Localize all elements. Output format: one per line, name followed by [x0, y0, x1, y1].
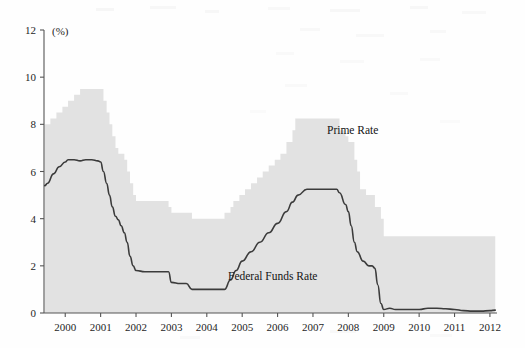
x-tick-label: 2011 — [444, 322, 466, 333]
x-tick-label: 2006 — [267, 322, 289, 333]
x-tick-label: 2007 — [302, 322, 324, 333]
x-tick-label: 2002 — [125, 322, 147, 333]
x-tick-label: 2000 — [54, 322, 76, 333]
y-axis-unit-label: (%) — [52, 26, 69, 37]
y-axis-ticks — [40, 30, 44, 313]
x-tick-label: 2009 — [373, 322, 395, 333]
y-tick-label: 0 — [6, 308, 36, 319]
x-tick-label: 2008 — [337, 322, 359, 333]
x-tick-label: 2005 — [231, 322, 253, 333]
x-axis-ticks — [65, 313, 490, 317]
y-tick-label: 10 — [6, 72, 36, 83]
federal-funds-rate-annotation: Federal Funds Rate — [228, 270, 317, 282]
x-tick-label: 2003 — [160, 322, 182, 333]
y-tick-label: 4 — [6, 213, 36, 224]
x-tick-label: 2012 — [479, 322, 501, 333]
y-tick-label: 8 — [6, 119, 36, 130]
x-tick-label: 2004 — [196, 322, 218, 333]
x-tick-label: 2010 — [408, 322, 430, 333]
chart-figure: (%) 024681012 20002001200220032004200520… — [0, 0, 525, 348]
interest-rates-chart — [0, 0, 525, 348]
prime-rate-annotation: Prime Rate — [327, 124, 378, 136]
y-tick-label: 6 — [6, 166, 36, 177]
y-tick-label: 12 — [6, 25, 36, 36]
x-tick-label: 2001 — [90, 322, 112, 333]
y-tick-label: 2 — [6, 260, 36, 271]
